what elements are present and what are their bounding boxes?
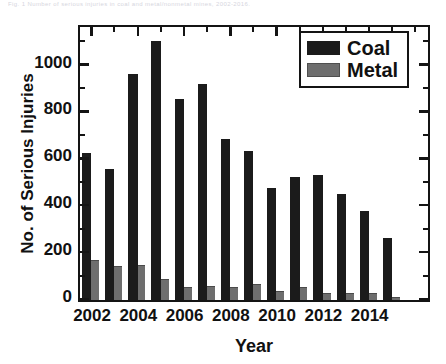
y-tick-label-800: 800	[2, 99, 72, 119]
x-tick-label-2008: 2008	[206, 306, 256, 326]
bar-coal-2009	[244, 151, 253, 300]
bar-coal-2005	[151, 41, 160, 300]
x-tick-2005	[160, 27, 162, 32]
x-tick-label-2012: 2012	[298, 306, 348, 326]
y-tick-minor-right-100	[423, 275, 428, 277]
y-tick-right-600	[419, 157, 428, 160]
y-tick-right-200	[419, 251, 428, 254]
bar-metal-2011	[300, 287, 308, 300]
bar-metal-2004	[138, 265, 146, 300]
x-tick-2009	[252, 27, 254, 32]
legend-label-metal: Metal	[347, 60, 398, 80]
bar-group-2004	[126, 27, 149, 300]
y-tick-200	[80, 251, 89, 254]
bar-group-2005	[149, 27, 172, 300]
x-tick-2006	[183, 27, 186, 36]
y-tick-label-0: 0	[2, 287, 72, 307]
bar-metal-2010	[276, 291, 284, 300]
bar-metal-2015	[392, 297, 400, 300]
x-tick-2004	[137, 27, 140, 36]
bar-metal-2005	[161, 279, 169, 300]
y-tick-label-200: 200	[2, 240, 72, 260]
bar-coal-2015	[383, 238, 392, 300]
x-tick-2007	[206, 27, 208, 32]
bar-metal-2003	[114, 266, 122, 300]
y-tick-minor-right-300	[423, 228, 428, 230]
figure-caption-clipped: Fig. 1 Number of serious injuries in coa…	[8, 0, 308, 8]
bar-group-2009	[242, 27, 265, 300]
x-tick-2016	[414, 27, 416, 32]
bar-group-2010	[265, 27, 288, 300]
bar-group-2006	[173, 27, 196, 300]
bar-coal-2002	[82, 153, 91, 300]
x-axis-title: Year	[78, 336, 430, 357]
legend-label-coal: Coal	[347, 38, 390, 58]
y-tick-right-1000	[419, 63, 428, 66]
legend-swatch-metal-icon	[307, 63, 340, 77]
y-tick-800	[80, 110, 89, 113]
y-tick-0	[80, 298, 89, 301]
x-tick-2008	[229, 27, 232, 36]
y-tick-1000	[80, 63, 89, 66]
bar-metal-2008	[230, 287, 238, 300]
y-tick-minor-1100	[80, 40, 85, 42]
y-tick-minor-100	[80, 275, 85, 277]
x-tick-2002	[90, 27, 93, 36]
y-tick-label-1000: 1000	[2, 53, 72, 73]
x-tick-label-2014: 2014	[345, 306, 395, 326]
figure-chart-serious-injuries: Fig. 1 Number of serious injuries in coa…	[0, 0, 446, 364]
bar-metal-2002	[91, 260, 99, 300]
bar-group-2003	[103, 27, 126, 300]
bar-coal-2011	[290, 177, 299, 300]
y-tick-minor-right-700	[423, 134, 428, 136]
bar-metal-2009	[253, 284, 261, 300]
bar-metal-2012	[323, 293, 331, 300]
x-tick-label-2006: 2006	[160, 306, 210, 326]
x-tick-label-2004: 2004	[113, 306, 163, 326]
bar-coal-2013	[337, 194, 346, 300]
bar-coal-2010	[267, 188, 276, 300]
y-tick-label-600: 600	[2, 146, 72, 166]
y-tick-minor-right-900	[423, 87, 428, 89]
bar-metal-2007	[207, 286, 215, 300]
y-tick-right-0	[419, 298, 428, 301]
x-tick-label-2010: 2010	[252, 306, 302, 326]
bar-coal-2012	[313, 175, 322, 300]
x-tick-label-2002: 2002	[67, 306, 117, 326]
bar-coal-2003	[105, 169, 114, 300]
bar-group-2002	[80, 27, 103, 300]
bar-metal-2006	[184, 287, 192, 300]
bar-coal-2007	[198, 84, 207, 300]
y-tick-minor-900	[80, 87, 85, 89]
x-tick-2010	[275, 27, 278, 36]
legend-item-metal: Metal	[307, 59, 401, 81]
y-tick-minor-300	[80, 228, 85, 230]
y-tick-right-800	[419, 110, 428, 113]
y-tick-minor-right-500	[423, 181, 428, 183]
y-tick-400	[80, 204, 89, 207]
y-tick-minor-right-1100	[423, 40, 428, 42]
y-tick-label-400: 400	[2, 193, 72, 213]
bar-metal-2013	[346, 293, 354, 300]
legend-swatch-coal-icon	[307, 41, 340, 55]
bar-group-2007	[196, 27, 219, 300]
y-tick-minor-500	[80, 181, 85, 183]
chart-legend: Coal Metal	[299, 31, 409, 88]
bar-coal-2014	[360, 211, 369, 300]
bar-coal-2006	[175, 99, 184, 300]
legend-item-coal: Coal	[307, 37, 401, 59]
bar-group-2008	[219, 27, 242, 300]
bar-coal-2004	[128, 74, 137, 300]
y-tick-600	[80, 157, 89, 160]
bar-coal-2008	[221, 139, 230, 300]
y-tick-right-400	[419, 204, 428, 207]
bar-metal-2014	[369, 293, 377, 300]
y-tick-minor-700	[80, 134, 85, 136]
x-tick-2003	[113, 27, 115, 32]
